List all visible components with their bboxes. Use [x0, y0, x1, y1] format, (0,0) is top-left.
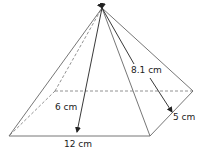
back-right-lateral-edge — [102, 8, 193, 91]
back-left-lateral-edge — [55, 8, 102, 91]
left-base-edge — [9, 91, 55, 136]
slant-arrow-lower — [150, 78, 172, 112]
pyramid-diagram — [0, 0, 201, 161]
base-width-label: 5 cm — [173, 113, 195, 122]
hidden-edges — [9, 8, 193, 136]
height-arrow — [77, 8, 102, 132]
visible-edges — [9, 8, 193, 136]
slant-height-label: 8.1 cm — [131, 66, 162, 75]
height-label: 6 cm — [55, 103, 77, 112]
front-left-lateral-edge — [9, 8, 102, 136]
base-length-label: 12 cm — [64, 140, 92, 149]
slant-arrow-upper — [102, 8, 134, 64]
